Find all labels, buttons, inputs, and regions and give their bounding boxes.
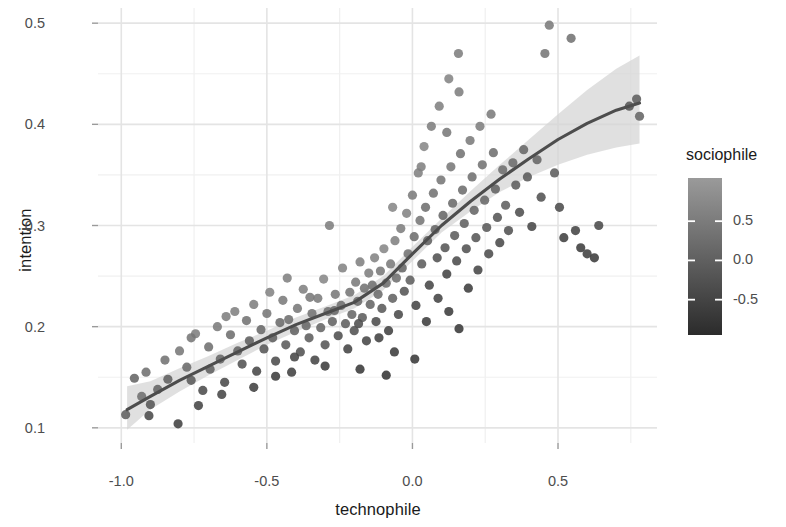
data-point — [376, 266, 385, 275]
data-point — [406, 276, 415, 285]
data-point — [362, 336, 371, 345]
data-point — [448, 199, 457, 208]
plot-canvas — [0, 0, 786, 527]
data-point — [305, 293, 314, 302]
data-point — [390, 347, 399, 356]
x-axis-tick-label: 0.5 — [528, 473, 588, 489]
data-point — [475, 122, 484, 131]
data-point — [220, 378, 229, 387]
legend-tick-label: 0.5 — [733, 212, 753, 228]
data-point — [364, 268, 373, 277]
data-point — [377, 304, 386, 313]
data-point — [433, 253, 442, 262]
x-axis-tick-label: 0.0 — [382, 473, 442, 489]
data-point — [473, 265, 482, 274]
data-point — [489, 148, 498, 157]
data-point — [408, 191, 417, 200]
data-point — [454, 324, 463, 333]
data-point — [304, 333, 313, 342]
data-point — [213, 322, 222, 331]
x-axis-title: technophile — [98, 500, 658, 519]
data-point — [501, 201, 510, 210]
data-point — [417, 259, 426, 268]
data-point — [320, 340, 329, 349]
y-axis-tick-label: 0.4 — [0, 116, 45, 132]
data-point — [328, 317, 337, 326]
data-point — [366, 300, 375, 309]
data-point — [545, 21, 554, 30]
data-point — [252, 367, 261, 376]
data-point — [355, 257, 364, 266]
data-point — [238, 359, 247, 368]
data-point — [482, 223, 491, 232]
y-axis-tick-label: 0.1 — [0, 420, 45, 436]
data-point — [454, 49, 463, 58]
data-point — [571, 226, 580, 235]
data-point — [265, 288, 274, 297]
data-point — [259, 344, 268, 353]
data-point — [217, 390, 226, 399]
data-point — [341, 319, 350, 328]
data-point — [187, 333, 196, 342]
data-point — [370, 253, 379, 262]
data-point — [400, 287, 409, 296]
data-point — [515, 208, 524, 217]
data-point — [141, 368, 150, 377]
y-axis-title: intention — [16, 90, 35, 390]
legend-title: sociophile — [686, 146, 757, 164]
data-point — [440, 243, 449, 252]
data-point — [464, 284, 473, 293]
data-point — [429, 189, 438, 198]
data-point — [480, 196, 489, 205]
data-point — [422, 317, 431, 326]
data-point — [470, 206, 479, 215]
data-point — [374, 333, 383, 342]
legend-tick-label: -0.5 — [733, 291, 758, 307]
data-point — [410, 232, 419, 241]
data-point — [458, 185, 467, 194]
data-point — [537, 193, 546, 202]
data-point — [495, 238, 504, 247]
data-point — [478, 160, 487, 169]
data-point — [550, 168, 559, 177]
data-point — [419, 142, 428, 151]
data-point — [293, 304, 302, 313]
data-point — [540, 49, 549, 58]
data-point — [146, 400, 155, 409]
data-point — [468, 172, 477, 181]
data-point — [242, 316, 251, 325]
data-point — [222, 312, 231, 321]
data-point — [198, 386, 207, 395]
legend-colorbar — [688, 178, 722, 335]
scatter-plot-figure: intention technophile 0.10.20.30.40.5 -1… — [0, 0, 786, 527]
data-point — [163, 375, 172, 384]
data-point — [396, 224, 405, 233]
data-point — [567, 34, 576, 43]
data-point — [384, 326, 393, 335]
y-axis-tick-label: 0.2 — [0, 319, 45, 335]
data-point — [175, 346, 184, 355]
data-point — [284, 315, 293, 324]
data-point — [462, 244, 471, 253]
data-point — [320, 362, 329, 371]
data-point — [504, 226, 513, 235]
data-point — [486, 110, 495, 119]
x-axis-tick-label: -0.5 — [237, 473, 297, 489]
data-point — [204, 342, 213, 351]
data-point — [319, 275, 328, 284]
data-point — [590, 253, 599, 262]
data-point — [271, 356, 280, 365]
data-point — [347, 310, 356, 319]
data-point — [275, 318, 284, 327]
data-point — [394, 310, 403, 319]
data-point — [182, 363, 191, 372]
data-point — [460, 219, 469, 228]
data-point — [262, 309, 271, 318]
data-point — [290, 352, 299, 361]
data-point — [160, 355, 169, 364]
data-point — [351, 278, 360, 287]
data-point — [144, 411, 153, 420]
data-point — [355, 365, 364, 374]
data-point — [452, 256, 461, 265]
data-point — [313, 294, 322, 303]
